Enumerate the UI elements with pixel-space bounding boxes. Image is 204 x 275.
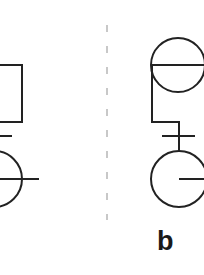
panel-label-b: b <box>157 226 174 256</box>
panel-a <box>0 65 39 207</box>
square-symbol <box>0 65 22 122</box>
connector-line <box>152 65 179 151</box>
panel-b <box>151 38 204 207</box>
